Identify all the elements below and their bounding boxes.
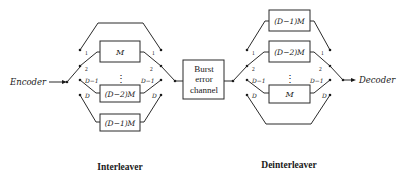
deinterleaver-caption: Deinterleaver (261, 160, 317, 170)
de-out-contact-d-1 (329, 79, 332, 82)
out-label-d-1: D−1 (140, 77, 155, 84)
interleaver-diagram: Encoder 1 2 D−1 D M ⋮ (D−2)M (D−1)M (0, 0, 405, 181)
de-in-label-d: D (251, 92, 257, 99)
in-label-1: 1 (85, 50, 88, 56)
interleaver: Encoder 1 2 D−1 D M ⋮ (D−2)M (D−1)M (9, 23, 183, 172)
out-contact-d (160, 94, 163, 97)
wire-out-branch-d (140, 95, 161, 122)
de-out-contact-d (329, 94, 332, 97)
wire-in-branch-2 (80, 52, 100, 66)
interleaver-caption: Interleaver (97, 162, 143, 172)
de-delay-label-d-2-m: (D−2)M (274, 48, 305, 57)
delay-label-m: M (115, 48, 125, 57)
decoder-arrow-head (351, 78, 356, 82)
out-label-1: 1 (152, 50, 155, 56)
wire-out-branch-2 (140, 52, 161, 66)
output-commutator-arm (161, 66, 175, 81)
de-input-commutator-arm (233, 66, 247, 81)
in-label-d-1: D−1 (84, 77, 99, 84)
de-delay-label-m: M (284, 90, 294, 99)
decoder-label: Decoder (358, 75, 396, 85)
in-label-2: 2 (85, 66, 88, 72)
out-label-2: 2 (150, 66, 153, 72)
out-label-d: D (151, 92, 157, 99)
encoder-label: Encoder (9, 77, 47, 87)
out-contact-d-1 (160, 79, 163, 82)
de-out-label-d: D (321, 92, 327, 99)
wire-in-branch-d (80, 95, 100, 122)
de-wire-out-branch-1 (310, 21, 330, 50)
burst-error-channel: Burst error channel (183, 60, 224, 99)
channel-label-line-3: channel (190, 85, 218, 95)
de-wire-out-branch-2 (310, 52, 330, 66)
de-out-label-2: 2 (319, 66, 322, 72)
de-wire-in-branch-1 (247, 21, 269, 50)
de-output-commutator-arm (330, 66, 343, 80)
de-wire-in-branch-2 (247, 52, 269, 66)
de-out-label-1: 1 (321, 50, 324, 56)
input-commutator-arm (67, 67, 80, 82)
de-in-label-d-1: D−1 (251, 77, 266, 84)
out-contact-1 (160, 49, 163, 52)
de-ellipsis-dots: ⋮ (285, 73, 295, 84)
in-label-d: D (84, 92, 90, 99)
delay-label-d-2-m: (D−2)M (105, 90, 136, 99)
channel-label-line-2: error (195, 74, 213, 84)
channel-label-line-1: Burst (194, 64, 214, 74)
delay-label-d-1-m: (D−1)M (105, 119, 136, 128)
de-out-label-d-1: D−1 (309, 77, 324, 84)
deinterleaver: 1 2 D−1 D (D−1)M (D−2)M ⋮ M 1 2 D−1 D (224, 10, 396, 170)
de-out-contact-1 (329, 49, 332, 52)
de-delay-label-d-1-m: (D−1)M (274, 17, 305, 26)
de-in-label-1: 1 (252, 50, 255, 56)
de-in-label-2: 2 (252, 66, 255, 72)
ellipsis-dots: ⋮ (116, 73, 126, 84)
